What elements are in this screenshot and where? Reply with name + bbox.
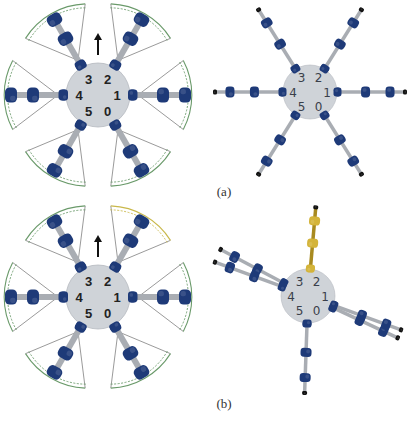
hip-joint-icon bbox=[306, 265, 316, 273]
foot-joint-icon bbox=[179, 290, 191, 305]
hip-joint-icon bbox=[60, 292, 68, 303]
leg-label-4: 4 bbox=[75, 290, 83, 305]
foot-joint-icon bbox=[179, 88, 191, 103]
leg-label-0: 0 bbox=[313, 304, 321, 318]
workspace-edge bbox=[111, 130, 118, 186]
workspace-edge bbox=[78, 332, 85, 388]
leg-label-3: 3 bbox=[298, 71, 306, 85]
foot-tip-icon bbox=[313, 205, 318, 209]
leg-label-2: 2 bbox=[313, 275, 321, 289]
leg-link bbox=[323, 113, 361, 174]
knee-joint-icon bbox=[307, 238, 319, 248]
knee-joint-icon bbox=[27, 290, 39, 305]
foot-tip-icon bbox=[403, 90, 407, 95]
figure: 012345012345012345012345 (a) (b) bbox=[0, 0, 416, 428]
hip-joint-icon bbox=[334, 88, 341, 97]
leg-label-4: 4 bbox=[287, 290, 295, 304]
foot-joint-icon bbox=[5, 290, 17, 305]
knee-joint-icon bbox=[27, 88, 39, 103]
leg-label-0: 0 bbox=[315, 100, 323, 114]
leg-link bbox=[259, 10, 297, 71]
foot-joint-icon bbox=[5, 88, 17, 103]
knee-joint-icon bbox=[157, 290, 169, 305]
ankle-joint-icon bbox=[309, 216, 321, 226]
leg-label-4: 4 bbox=[289, 86, 297, 100]
render3d-a: 012345 bbox=[213, 7, 407, 178]
leg-link bbox=[323, 10, 361, 71]
hip-joint-icon bbox=[302, 319, 311, 326]
knee-joint-icon bbox=[300, 348, 311, 357]
knee-joint-icon bbox=[157, 88, 169, 103]
leg-label-3: 3 bbox=[85, 72, 92, 87]
leg-label-0: 0 bbox=[104, 104, 111, 119]
direction-arrowhead-icon bbox=[94, 235, 102, 242]
hip-joint-icon bbox=[128, 90, 136, 101]
ankle-joint-icon bbox=[299, 373, 310, 382]
leg-label-2: 2 bbox=[315, 71, 323, 85]
render3d-b: 012345 bbox=[212, 205, 404, 395]
leg-label-5: 5 bbox=[85, 306, 92, 321]
leg-label-5: 5 bbox=[298, 100, 306, 114]
leg-label-3: 3 bbox=[85, 274, 92, 289]
workspace-edge bbox=[111, 332, 118, 388]
caption-b: (b) bbox=[216, 396, 231, 412]
leg-label-3: 3 bbox=[296, 275, 304, 289]
schematic-a: 012345 bbox=[4, 4, 192, 186]
workspace-edge bbox=[78, 130, 85, 186]
figure-canvas: 012345012345012345012345 bbox=[0, 0, 416, 428]
leg-label-5: 5 bbox=[85, 104, 92, 119]
hip-joint-icon bbox=[60, 90, 68, 101]
leg-label-1: 1 bbox=[113, 88, 120, 103]
workspace-edge bbox=[78, 4, 85, 60]
leg-link bbox=[305, 321, 308, 393]
leg-label-2: 2 bbox=[104, 72, 111, 87]
schematic-b: 012345 bbox=[4, 206, 192, 388]
leg-label-1: 1 bbox=[323, 86, 331, 100]
workspace-edge bbox=[111, 4, 118, 60]
ankle-joint-icon bbox=[386, 87, 395, 98]
caption-a: (a) bbox=[217, 184, 231, 200]
leg-label-4: 4 bbox=[75, 88, 83, 103]
hip-joint-icon bbox=[128, 292, 136, 303]
leg-label-1: 1 bbox=[113, 290, 120, 305]
knee-joint-icon bbox=[250, 87, 259, 98]
workspace-edge bbox=[78, 206, 85, 262]
foot-tip-icon bbox=[302, 391, 307, 395]
direction-arrowhead-icon bbox=[94, 33, 102, 40]
ankle-joint-icon bbox=[228, 250, 241, 264]
knee-joint-icon bbox=[361, 87, 370, 98]
hip-joint-icon bbox=[280, 88, 287, 97]
ankle-joint-icon bbox=[225, 87, 234, 98]
leg-label-0: 0 bbox=[104, 306, 111, 321]
ankle-joint-icon bbox=[224, 261, 236, 274]
foot-tip-icon bbox=[213, 90, 217, 95]
leg-label-2: 2 bbox=[104, 274, 111, 289]
leg-link bbox=[259, 113, 297, 174]
leg-label-5: 5 bbox=[296, 304, 304, 318]
leg-link bbox=[331, 305, 401, 330]
leg-label-1: 1 bbox=[321, 290, 329, 304]
workspace-edge bbox=[111, 206, 118, 262]
